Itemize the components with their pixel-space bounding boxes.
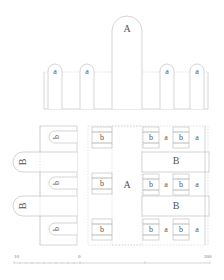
- right-cell-label: b: [179, 133, 183, 142]
- scale-bar: 10 0 200: [14, 254, 212, 264]
- small-arch-label: a: [195, 67, 199, 76]
- right-cell-label: a: [195, 225, 199, 234]
- right-cell-label: a: [164, 225, 168, 234]
- elevation: A a a a a: [44, 16, 208, 109]
- architectural-diagram: A a a a a b b b B B: [0, 0, 224, 280]
- scale-label-right: 200: [204, 254, 212, 259]
- right-cell-label: b: [149, 225, 153, 234]
- right-cell-label: a: [164, 180, 168, 189]
- left-B-label: B: [17, 202, 28, 209]
- right-cell-label: a: [164, 133, 168, 142]
- right-cell-label: b: [179, 180, 183, 189]
- center-b-label: b: [100, 225, 104, 234]
- right-B-label: B: [173, 200, 180, 211]
- right-cell-label: a: [195, 133, 199, 142]
- small-arch-label: a: [165, 67, 169, 76]
- right-cell-label: a: [195, 180, 199, 189]
- center-A-label: A: [123, 179, 131, 190]
- right-cell-label: b: [149, 133, 153, 142]
- left-b-label: b: [52, 227, 61, 231]
- scale-label-left: 10: [14, 254, 20, 259]
- center-b-label: b: [100, 133, 104, 142]
- large-arch-label: A: [123, 23, 131, 34]
- scale-label-zero: 0: [78, 254, 81, 259]
- small-arch-label: a: [85, 67, 89, 76]
- center-b-label: b: [100, 179, 104, 188]
- left-b-label: b: [52, 135, 61, 139]
- left-B-label: B: [17, 158, 28, 165]
- right-cell-label: b: [149, 180, 153, 189]
- center-right-frame: [88, 126, 208, 245]
- plan: b b b B B b b b A: [13, 126, 209, 245]
- right-B-label: B: [173, 155, 180, 166]
- left-b-label: b: [52, 181, 61, 185]
- small-arch-label: a: [53, 67, 57, 76]
- right-cell-label: b: [179, 225, 183, 234]
